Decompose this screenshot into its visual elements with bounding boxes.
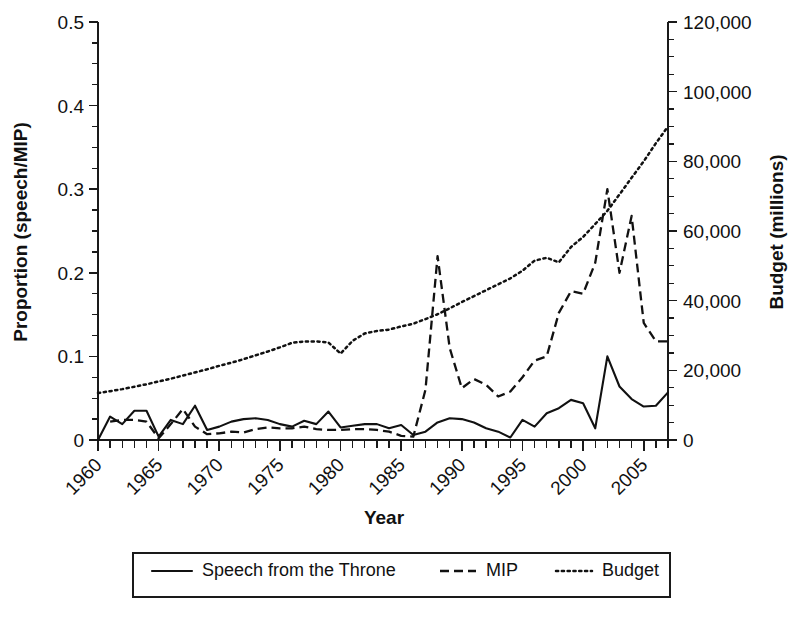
y-axis-left-ticklabels: 00.10.20.30.40.5 bbox=[58, 12, 85, 451]
y-axis-left-ticklabel: 0.1 bbox=[58, 346, 84, 367]
x-axis-ticklabel: 1980 bbox=[304, 454, 349, 499]
y-axis-left-ticklabel: 0.2 bbox=[58, 263, 84, 284]
y-axis-right-ticklabel: 40,000 bbox=[683, 291, 741, 312]
x-axis-ticklabel: 1975 bbox=[243, 454, 288, 499]
y-axis-right-ticklabel: 80,000 bbox=[683, 151, 741, 172]
x-axis-ticklabel: 1960 bbox=[61, 454, 106, 499]
y-axis-left-title: Proportion (speech/MIP) bbox=[10, 122, 31, 342]
y-axis-right-ticklabel: 120,000 bbox=[683, 12, 752, 33]
series-line-mip bbox=[110, 189, 668, 438]
data-series-group bbox=[98, 127, 668, 441]
y-axis-right-ticklabel: 60,000 bbox=[683, 221, 741, 242]
line-chart: 00.10.20.30.40.5 020,00040,00060,00080,0… bbox=[0, 0, 803, 617]
plot-frame bbox=[98, 22, 668, 440]
y-axis-right-ticklabel: 20,000 bbox=[683, 360, 741, 381]
y-axis-left-ticklabel: 0.3 bbox=[58, 179, 84, 200]
series-line-budget bbox=[98, 127, 668, 393]
y-axis-left-ticklabel: 0.5 bbox=[58, 12, 84, 33]
y-axis-right-ticklabel: 0 bbox=[683, 430, 694, 451]
legend-label: Speech from the Throne bbox=[202, 560, 396, 580]
chart-legend: Speech from the ThroneMIPBudget bbox=[133, 553, 670, 597]
legend-label: MIP bbox=[486, 560, 518, 580]
x-axis-ticklabel: 1990 bbox=[425, 454, 470, 499]
chart-figure: 00.10.20.30.40.5 020,00040,00060,00080,0… bbox=[0, 0, 803, 617]
legend-label: Budget bbox=[602, 560, 659, 580]
y-axis-right-ticks bbox=[668, 22, 677, 440]
x-axis-ticklabel: 2005 bbox=[607, 454, 652, 499]
y-axis-right-title: Budget (millions) bbox=[766, 154, 787, 309]
y-axis-left-ticks bbox=[89, 22, 98, 440]
y-axis-right-ticklabel: 100,000 bbox=[683, 82, 752, 103]
x-axis-ticks bbox=[98, 440, 668, 451]
x-axis-ticklabel: 1995 bbox=[486, 454, 531, 499]
y-axis-left-ticklabel: 0 bbox=[73, 430, 84, 451]
x-axis-ticklabel: 1965 bbox=[122, 454, 167, 499]
x-axis-ticklabel: 2000 bbox=[546, 454, 591, 499]
x-axis-ticklabel: 1985 bbox=[364, 454, 409, 499]
x-axis-ticklabel: 1970 bbox=[182, 454, 227, 499]
x-axis-title: Year bbox=[364, 507, 405, 528]
series-line-speech bbox=[98, 356, 668, 440]
x-axis-ticklabels: 1960196519701975198019851990199520002005 bbox=[61, 454, 651, 499]
y-axis-left-ticklabel: 0.4 bbox=[58, 96, 85, 117]
y-axis-right-ticklabels: 020,00040,00060,00080,000100,000120,000 bbox=[683, 12, 752, 451]
